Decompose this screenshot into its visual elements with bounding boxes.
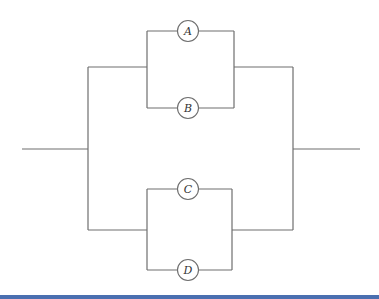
component-a-label: A (183, 25, 192, 38)
component-a: A (178, 21, 199, 42)
reliability-diagram: A B C D (0, 0, 379, 299)
component-d-label: D (183, 264, 193, 277)
component-b: B (178, 98, 199, 119)
component-b-label: B (183, 102, 192, 115)
bottom-divider-bar (0, 295, 379, 299)
component-c-label: C (184, 183, 193, 196)
component-c: C (178, 179, 199, 200)
component-d: D (178, 260, 199, 281)
